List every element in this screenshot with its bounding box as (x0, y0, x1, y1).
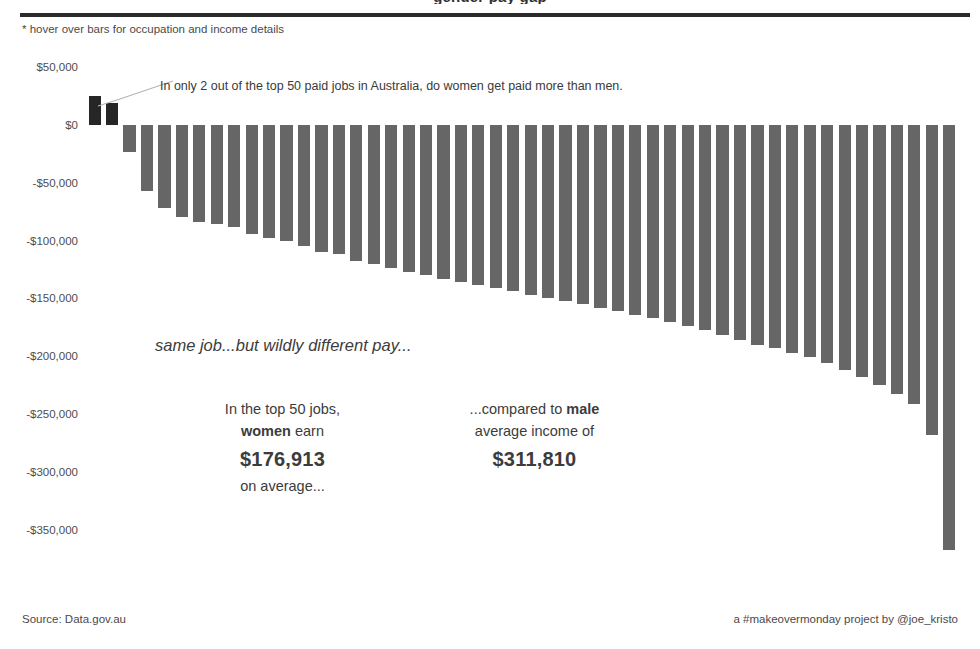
stat-women-line2-rest: earn (291, 423, 324, 439)
stat-block-men: ...compared to male average income of $3… (412, 398, 657, 475)
bar[interactable] (158, 125, 170, 208)
bar[interactable] (403, 125, 415, 272)
y-axis-tick-label: -$50,000 (4, 177, 78, 189)
bar[interactable] (594, 125, 606, 308)
y-axis-tick-label: $50,000 (4, 61, 78, 73)
bar[interactable] (106, 103, 118, 125)
bar[interactable] (420, 125, 432, 275)
bar[interactable] (263, 125, 275, 238)
bar[interactable] (298, 125, 310, 246)
bar[interactable] (856, 125, 868, 377)
bar[interactable] (559, 125, 571, 301)
y-axis-tick-label: -$150,000 (4, 292, 78, 304)
stat-women-line1: In the top 50 jobs, (225, 401, 340, 417)
bar[interactable] (943, 125, 955, 550)
bar[interactable] (507, 125, 519, 291)
bar[interactable] (891, 125, 903, 394)
bar[interactable] (280, 125, 292, 241)
bar[interactable] (629, 125, 641, 315)
bar[interactable] (873, 125, 885, 385)
bar[interactable] (926, 125, 938, 435)
stat-women-amount: $176,913 (165, 444, 400, 474)
bar[interactable] (89, 96, 101, 125)
bar[interactable] (472, 125, 484, 285)
bar[interactable] (525, 125, 537, 295)
bar[interactable] (577, 125, 589, 304)
stat-men-line1-rest: ...compared to (470, 401, 567, 417)
bar[interactable] (385, 125, 397, 268)
bar[interactable] (437, 125, 449, 279)
footer-credit: a #makeovermonday project by @joe_kristo (733, 613, 958, 625)
bar[interactable] (647, 125, 659, 318)
y-axis-tick-label: -$200,000 (4, 350, 78, 362)
bar[interactable] (699, 125, 711, 330)
y-axis-tick-label: -$300,000 (4, 466, 78, 478)
bar[interactable] (908, 125, 920, 404)
bar[interactable] (211, 125, 223, 224)
bar[interactable] (682, 125, 694, 326)
bar[interactable] (315, 125, 327, 252)
bar[interactable] (246, 125, 258, 234)
bar[interactable] (176, 125, 188, 217)
bar[interactable] (350, 125, 362, 261)
stat-block-women: In the top 50 jobs, women earn $176,913 … (165, 398, 400, 497)
callout-annotation: In only 2 out of the top 50 paid jobs in… (160, 79, 623, 93)
bar[interactable] (751, 125, 763, 345)
bar[interactable] (786, 125, 798, 353)
bar[interactable] (542, 125, 554, 298)
y-axis-tick-label: -$100,000 (4, 235, 78, 247)
bar[interactable] (123, 125, 135, 152)
stat-men-label: male (566, 401, 599, 417)
stat-men-line2: average income of (475, 423, 594, 439)
bar[interactable] (193, 125, 205, 222)
tagline-text: same job...but wildly different pay... (155, 336, 411, 355)
bar[interactable] (490, 125, 502, 288)
bar[interactable] (612, 125, 624, 311)
bar[interactable] (804, 125, 816, 357)
bar[interactable] (821, 125, 833, 363)
bar[interactable] (368, 125, 380, 264)
bar[interactable] (734, 125, 746, 340)
y-axis-tick-label: -$250,000 (4, 408, 78, 420)
bar[interactable] (228, 125, 240, 227)
footer-source: Source: Data.gov.au (22, 613, 126, 625)
bar[interactable] (769, 125, 781, 348)
bar[interactable] (664, 125, 676, 322)
stat-women-label: women (241, 423, 291, 439)
stat-men-amount: $311,810 (412, 444, 657, 474)
bar[interactable] (455, 125, 467, 282)
y-axis-tick-label: -$350,000 (4, 524, 78, 536)
bar[interactable] (839, 125, 851, 370)
bar[interactable] (141, 125, 153, 191)
stat-women-line4: on average... (240, 478, 325, 494)
bar[interactable] (716, 125, 728, 335)
y-axis: $50,000$0-$50,000-$100,000-$150,000-$200… (0, 0, 78, 600)
y-axis-tick-label: $0 (4, 119, 78, 131)
bar[interactable] (333, 125, 345, 254)
